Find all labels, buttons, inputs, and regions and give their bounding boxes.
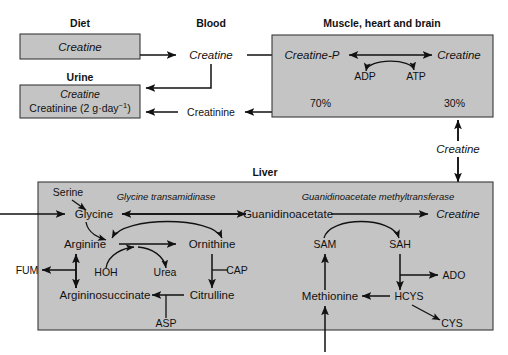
liver-urea-label: Urea: [154, 266, 177, 278]
liver-glycine-label: Glycine: [75, 208, 113, 220]
pathway-diagram: Diet Blood Muscle, heart and brain Urine…: [0, 0, 508, 355]
liver-creatine-label: Creatine: [436, 208, 479, 220]
diagram-canvas: Diet Blood Muscle, heart and brain Urine…: [0, 0, 508, 355]
enzyme-guanidinoacetate-methyltransferase: Guanidinoacetate methyltransferase: [302, 191, 455, 202]
enzyme-glycine-transamidinase: Glycine transamidinase: [117, 191, 216, 202]
muscle-pct-70: 70%: [310, 97, 331, 109]
heading-urine: Urine: [67, 71, 94, 83]
liver-ado-label: ADO: [443, 269, 466, 281]
liver-citrulline-label: Citrulline: [190, 289, 235, 301]
liver-box: [38, 182, 493, 330]
heading-diet: Diet: [70, 17, 90, 29]
liver-sah-label: SAH: [389, 238, 411, 250]
urine-creatinine-label: Creatinine (2 g·day−1): [29, 101, 130, 114]
liver-arginine-label: Arginine: [64, 238, 106, 250]
liver-guanidinoacetate-label: Guanidinoacetate: [243, 208, 333, 220]
heading-blood: Blood: [196, 17, 226, 29]
heading-liver: Liver: [252, 166, 277, 178]
liver-asp-label: ASP: [155, 317, 176, 329]
muscle-adp-label: ADP: [354, 70, 376, 82]
blood-creatine-label: Creatine: [189, 49, 232, 61]
liver-cap-label: CAP: [226, 264, 248, 276]
muscle-pct-30: 30%: [444, 97, 465, 109]
liver-serine-label: Serine: [53, 186, 84, 198]
heading-muscle: Muscle, heart and brain: [323, 17, 440, 29]
muscle-atp-label: ATP: [406, 70, 426, 82]
muscle-creatine-label: Creatine: [437, 49, 480, 61]
liver-cys-label: CYS: [441, 317, 463, 329]
blood-creatinine-label: Creatinine: [187, 106, 235, 118]
urine-creatine-label: Creatine: [60, 88, 100, 100]
liver-ornithine-label: Ornithine: [189, 238, 236, 250]
arrow-blood-creatine-to-urine: [146, 64, 211, 88]
liver-hcys-label: HCYS: [394, 290, 423, 302]
muscle-creatine-p-label: Creatine-P: [285, 49, 340, 61]
liver-sam-label: SAM: [314, 238, 337, 250]
liver-argininosuccinate-label: Argininosuccinate: [60, 289, 151, 301]
liver-fum-label: FUM: [16, 264, 39, 276]
liver-methionine-label: Methionine: [302, 290, 358, 302]
diet-creatine-label: Creatine: [58, 41, 101, 53]
transport-creatine-label: Creatine: [436, 143, 479, 155]
